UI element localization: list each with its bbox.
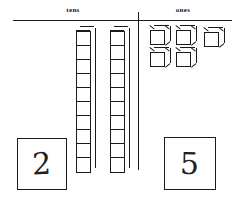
unit-cube-bottom-edge [165, 62, 171, 68]
unit-cube [176, 25, 198, 45]
unit-cube-bottom-edge [191, 40, 197, 46]
ten-rod [110, 26, 129, 173]
rod-segment [111, 60, 124, 74]
rod-segment [77, 144, 90, 158]
place-value-worksheet: tens ones [0, 0, 246, 203]
answer-box-ones[interactable]: 5 [164, 137, 216, 190]
answer-digit-ones: 5 [180, 148, 200, 178]
ten-rod [76, 26, 95, 173]
ten-rod-body [110, 31, 125, 173]
unit-cube [204, 27, 226, 47]
unit-cube-front-face [204, 32, 219, 47]
rod-segment [77, 46, 90, 60]
header-rule [13, 20, 232, 21]
rod-segment [111, 144, 124, 158]
rod-segment [111, 74, 124, 88]
unit-cube [150, 25, 172, 45]
unit-cube-front-face [150, 52, 165, 67]
rod-segment [77, 102, 90, 116]
unit-cube [150, 47, 172, 67]
unit-cube-bottom-edge [191, 62, 197, 68]
ten-rod-side-face [126, 28, 130, 168]
rod-segment [111, 130, 124, 144]
rod-segment [111, 88, 124, 102]
unit-cube [176, 47, 198, 67]
answer-box-tens[interactable]: 2 [17, 138, 67, 190]
rod-segment [77, 116, 90, 130]
rod-segment [111, 158, 124, 172]
rod-segment [77, 32, 90, 46]
ten-rod-side-face [92, 28, 96, 168]
unit-cube-bottom-edge [165, 40, 171, 46]
column-divider [138, 12, 139, 170]
rod-segment [111, 32, 124, 46]
rod-segment [77, 158, 90, 172]
unit-cube-front-face [150, 30, 165, 45]
rod-segment [77, 74, 90, 88]
column-label-ones: ones [160, 6, 206, 14]
column-label-tens: tens [50, 6, 96, 14]
answer-digit-tens: 2 [32, 148, 52, 179]
rod-segment [111, 116, 124, 130]
unit-cube-bottom-edge [219, 42, 225, 48]
rod-segment [111, 102, 124, 116]
rod-segment [111, 46, 124, 60]
rod-segment [77, 130, 90, 144]
unit-cube-front-face [176, 30, 191, 45]
rod-segment [77, 60, 90, 74]
rod-segment [77, 88, 90, 102]
ten-rod-body [76, 31, 91, 173]
unit-cube-front-face [176, 52, 191, 67]
